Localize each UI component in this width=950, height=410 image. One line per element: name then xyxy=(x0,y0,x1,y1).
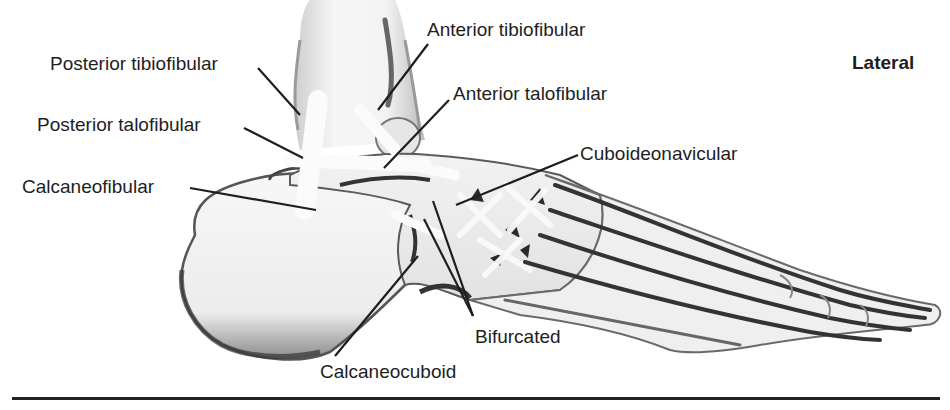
label-cuboideonavicular: Cuboideonavicular xyxy=(580,144,737,163)
view-label: Lateral xyxy=(852,53,914,72)
label-posterior-talofibular: Posterior talofibular xyxy=(37,115,201,134)
label-bifurcated: Bifurcated xyxy=(475,327,561,346)
label-calcaneofibular: Calcaneofibular xyxy=(22,177,154,196)
label-calcaneocuboid: Calcaneocuboid xyxy=(320,362,456,381)
ankle-ligament-diagram: Posterior tibiofibular Anterior tibiofib… xyxy=(0,0,950,410)
bottom-divider xyxy=(12,397,940,400)
leader-posterior-talofibular xyxy=(244,128,303,158)
label-anterior-tibiofibular: Anterior tibiofibular xyxy=(427,20,585,39)
label-posterior-tibiofibular: Posterior tibiofibular xyxy=(50,54,218,73)
label-anterior-talofibular: Anterior talofibular xyxy=(453,84,607,103)
